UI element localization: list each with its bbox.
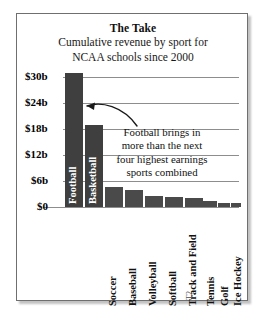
- bar-ice-hockey: [231, 203, 241, 207]
- bar-softball: [165, 197, 183, 207]
- bar-track-and-field: [185, 198, 203, 207]
- bar-volleyball: [145, 196, 163, 207]
- bar-soccer: [105, 187, 123, 207]
- ytick-label-0: $0: [37, 201, 48, 212]
- bar-baseball: [125, 190, 143, 207]
- ytick-label-12b: $12b: [25, 149, 48, 160]
- bar-label-soccer: Soccer: [108, 276, 119, 306]
- ytick-label-18b: $18b: [25, 123, 48, 134]
- annotation-arrow-icon: [79, 100, 141, 130]
- bar-label-volleyball: Volleyball: [148, 261, 159, 306]
- bar-label-football: Football: [68, 167, 79, 204]
- ytick-label-30b: $30b: [25, 71, 48, 82]
- bar-label-softball: Softball: [168, 271, 179, 306]
- chart-figure: The Take Cumulative revenue by sport for…: [0, 0, 263, 322]
- bar-golf: [218, 203, 230, 207]
- axis-baseline: [43, 207, 239, 208]
- annotation-line-3: four highest earnings: [99, 153, 225, 166]
- chart-panel: The Take Cumulative revenue by sport for…: [16, 13, 248, 301]
- corner-mark: T2: [185, 291, 194, 300]
- bar-label-basketball: Basketball: [88, 157, 99, 204]
- bar-label-baseball: Baseball: [128, 268, 139, 306]
- bar-label-ice-hockey: Ice Hockey: [233, 256, 244, 306]
- annotation-line-2: more than the next: [99, 139, 225, 152]
- ytick-label-24b: $24b: [25, 97, 48, 108]
- bar-tennis: [203, 201, 217, 207]
- bar-label-tennis: Tennis: [206, 277, 217, 306]
- annotation-line-4: sports combined: [99, 166, 225, 179]
- gridline-30b: [63, 77, 239, 78]
- plot-area: $30b $24b $18b $12b $6b $0 Football Bask…: [17, 14, 249, 302]
- chart-annotation: Football brings in more than the next fo…: [99, 126, 225, 179]
- ytick-label-6b: $6b: [31, 175, 48, 186]
- bar-label-golf: Golf: [220, 286, 231, 306]
